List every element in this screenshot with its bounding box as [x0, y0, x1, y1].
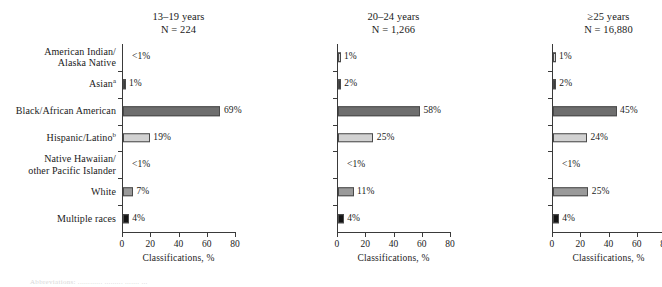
- x-axis-tick-label: 60: [202, 239, 212, 249]
- bar-value-label: 1%: [556, 53, 572, 63]
- bar-value-label: 4%: [559, 214, 575, 224]
- x-axis-tick: [179, 232, 180, 237]
- bar: [123, 133, 150, 143]
- bar-group: 24%: [553, 133, 608, 143]
- bar-row: <1%: [122, 151, 235, 178]
- bar: [553, 106, 617, 116]
- bar-row: 25%: [337, 125, 450, 152]
- x-axis-title-2: Classifications, %: [552, 253, 662, 263]
- bar-value-label: 1%: [341, 53, 357, 63]
- bar-group: <1%: [338, 160, 365, 170]
- bar-rows: 1%2%45%24%<1%25%4%: [552, 44, 662, 232]
- x-axis-tick-label: 20: [145, 239, 155, 249]
- bar-value-label: 4%: [129, 214, 145, 224]
- x-axis-tick-label: 20: [575, 239, 585, 249]
- bar: [553, 133, 587, 143]
- bar: [123, 187, 133, 197]
- bar-group: 4%: [553, 214, 575, 224]
- bar-rows: 1%2%58%25%<1%11%4%: [337, 44, 450, 232]
- x-axis-tick: [365, 232, 366, 237]
- x-axis-tick-label: 40: [389, 239, 399, 249]
- chart-figure: American Indian/Alaska NativeAsianaBlack…: [0, 0, 662, 287]
- bar-row: 69%: [122, 98, 235, 125]
- bar-rows: <1%1%69%19%<1%7%4%: [122, 44, 235, 232]
- y-axis-tick: [118, 125, 122, 126]
- bar-value-label: <1%: [123, 53, 150, 63]
- x-axis-tick: [150, 232, 151, 237]
- bar-value-label: 2%: [556, 80, 572, 90]
- bar-value-label: 25%: [373, 133, 394, 143]
- x-axis-tick-label: 40: [604, 239, 614, 249]
- bar-group: 1%: [553, 53, 572, 63]
- x-axis-tick: [122, 232, 123, 237]
- x-axis-title-0: Classifications, %: [122, 253, 235, 263]
- y-axis-tick: [118, 71, 122, 72]
- bar-row: 4%: [337, 205, 450, 232]
- bar-value-label: 1%: [126, 80, 142, 90]
- bar-row: 25%: [552, 178, 662, 205]
- bar: [553, 187, 588, 197]
- bar-value-label: 24%: [587, 133, 608, 143]
- bar-row: 1%: [337, 44, 450, 71]
- bar-value-label: <1%: [338, 160, 365, 170]
- bar: [338, 133, 373, 143]
- bar-row: 2%: [337, 71, 450, 98]
- bar-value-label: 2%: [341, 80, 357, 90]
- panel-title-1: 20–24 yearsN = 1,266: [337, 11, 450, 36]
- x-axis-title-1: Classifications, %: [337, 253, 450, 263]
- bar-row: <1%: [552, 151, 662, 178]
- bar-value-label: 11%: [354, 187, 375, 197]
- y-axis-tick: [118, 205, 122, 206]
- y-axis-tick: [548, 98, 552, 99]
- bar: [338, 187, 354, 197]
- bar-row: 7%: [122, 178, 235, 205]
- plot-area-1: 1%2%58%25%<1%11%4%020406080: [337, 44, 450, 232]
- bar-row: 4%: [552, 205, 662, 232]
- bar-row: 58%: [337, 98, 450, 125]
- bar-value-label: 25%: [588, 187, 609, 197]
- x-axis-tick: [207, 232, 208, 237]
- bar: [338, 106, 420, 116]
- bar-group: 1%: [338, 53, 357, 63]
- bar-group: <1%: [553, 160, 580, 170]
- chart-panel: 20–24 yearsN = 1,2661%2%58%25%<1%11%4%02…: [225, 0, 450, 287]
- bar-group: 2%: [338, 80, 357, 90]
- x-axis-tick: [580, 232, 581, 237]
- bar-group: <1%: [123, 53, 150, 63]
- bar-group: 25%: [338, 133, 395, 143]
- y-axis-tick: [118, 151, 122, 152]
- bar-value-label: <1%: [553, 160, 580, 170]
- bar-row: 4%: [122, 205, 235, 232]
- y-axis-tick: [333, 205, 337, 206]
- bar-row: <1%: [122, 44, 235, 71]
- plot-area-0: <1%1%69%19%<1%7%4%020406080: [122, 44, 235, 232]
- panel-title-2: ≥25 yearsN = 16,880: [552, 11, 662, 36]
- chart-panel: 13–19 yearsN = 224<1%1%69%19%<1%7%4%0204…: [10, 0, 235, 287]
- bar-group: 4%: [123, 214, 145, 224]
- bar-group: 7%: [123, 187, 149, 197]
- bar-row: 24%: [552, 125, 662, 152]
- x-axis-tick-label: 0: [550, 239, 555, 249]
- bar-row: 2%: [552, 71, 662, 98]
- bar-row: <1%: [337, 151, 450, 178]
- y-axis-tick: [118, 178, 122, 179]
- plot-area-2: 1%2%45%24%<1%25%4%020406080: [552, 44, 662, 232]
- bar-group: <1%: [123, 160, 150, 170]
- bar-value-label: 19%: [150, 133, 171, 143]
- x-axis-ticks: 020406080: [337, 232, 450, 233]
- x-axis-ticks: 020406080: [122, 232, 235, 233]
- bar: [123, 106, 220, 116]
- y-axis-tick: [548, 125, 552, 126]
- y-axis-tick: [548, 205, 552, 206]
- x-axis-tick-label: 0: [335, 239, 340, 249]
- y-axis-tick: [333, 151, 337, 152]
- y-axis-tick: [118, 98, 122, 99]
- bar-value-label: 4%: [344, 214, 360, 224]
- x-axis-ticks: 020406080: [552, 232, 662, 233]
- panel-title-0: 13–19 yearsN = 224: [122, 11, 235, 36]
- y-axis-tick: [333, 71, 337, 72]
- bar-group: 4%: [338, 214, 360, 224]
- x-axis-tick: [552, 232, 553, 237]
- x-axis-tick: [609, 232, 610, 237]
- bar-group: 11%: [338, 187, 374, 197]
